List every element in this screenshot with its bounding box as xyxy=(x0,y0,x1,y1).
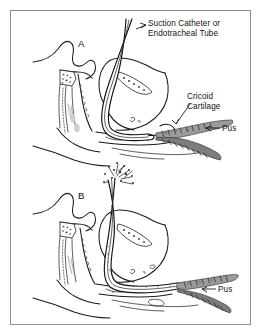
mandible-teeth-a xyxy=(117,72,152,94)
vertebral-body-a xyxy=(65,86,68,132)
panel-b-illustration xyxy=(33,162,238,318)
aryepiglottic-fold-a xyxy=(138,121,140,123)
tube-inner-edge-b xyxy=(108,180,177,286)
epiglottis-a xyxy=(131,117,135,121)
esophagus-a xyxy=(112,148,198,155)
pus-mass-lower-a xyxy=(156,137,221,160)
trachea-lower-wall-b xyxy=(99,294,172,297)
tube-lumen-line-b xyxy=(108,179,178,289)
neck-contour-a xyxy=(57,128,100,152)
pus-arrowhead-b xyxy=(202,287,207,292)
cricoid-cartilage-label-line1: Cricoid xyxy=(187,92,213,101)
aryepiglottic-fold-b xyxy=(143,272,145,274)
vertebral-anterior-a xyxy=(59,84,60,128)
cricoid-cartilage-label: CricoidCartilage xyxy=(187,92,221,111)
neck-lower-contour-b xyxy=(33,298,110,318)
mandible-teeth-b xyxy=(117,224,152,246)
vertebral-anterior-b xyxy=(59,236,60,280)
suction-catheter-label-line1: Suction Catheter or xyxy=(148,19,220,28)
posterior-soft-tissue-b xyxy=(120,306,164,311)
ligament-dotted-a xyxy=(63,88,66,133)
tube-tip-a xyxy=(148,134,154,140)
soft-tissue-shading-b xyxy=(68,256,75,276)
maxilla-bone-b xyxy=(60,222,76,238)
suction-catheter-label: Suction Catheter orEndotracheal Tube xyxy=(148,19,220,38)
trachea-lower-wall-a xyxy=(99,142,172,145)
vertebral-body-b xyxy=(65,238,68,284)
epiglottis-b xyxy=(131,269,135,273)
hard-palate-a xyxy=(103,58,165,73)
upper-lip-b xyxy=(99,220,105,257)
cricoid-cartilage-label-line2: Cartilage xyxy=(187,102,221,111)
posterior-soft-tissue-a xyxy=(120,154,164,159)
ligament-dotted-b xyxy=(63,240,66,285)
panel-letter-a: A xyxy=(78,39,85,49)
figure-container: Suction Catheter orEndotracheal Tube Cri… xyxy=(0,0,263,336)
pus-label-upper: Pus xyxy=(222,124,236,134)
pus-label-lower: Pus xyxy=(218,285,232,295)
suction-catheter-label-line2: Endotracheal Tube xyxy=(148,29,218,38)
pharyngeal-scallops-b xyxy=(82,238,91,271)
neck-contour-b xyxy=(57,280,100,304)
cricoid-arrowhead xyxy=(172,119,179,124)
tracheal-ring-b xyxy=(148,299,164,306)
cricoid-cartilage-b xyxy=(150,265,155,269)
panel-letter-b: B xyxy=(78,191,85,201)
soft-tissue-shading-a xyxy=(68,104,80,132)
pharyngeal-wall-b xyxy=(80,228,95,284)
tissue-marker-b xyxy=(112,291,114,293)
vertebral-posterior-b xyxy=(72,239,76,282)
vertebral-posterior-a xyxy=(72,87,76,130)
neck-lower-contour-a xyxy=(33,146,110,166)
